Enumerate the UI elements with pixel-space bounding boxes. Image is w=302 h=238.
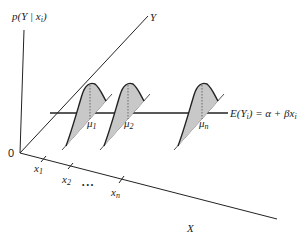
regression-diagram: p(Y | xi) Y X 0 x1 x2 xn • • • μ1 μ2 μn …	[0, 0, 302, 238]
y-axis-label: Y	[150, 11, 158, 23]
x-axis	[20, 153, 277, 219]
mean-label-n: μn	[198, 117, 209, 131]
mean-label-2: μ2	[123, 117, 134, 131]
density-axis-label: p(Y | xi)	[11, 10, 47, 24]
mean-label-1: μ1	[86, 117, 97, 131]
ellipsis: • • •	[82, 181, 94, 188]
regression-equation-label: E(Yi) = α + βxi	[229, 107, 297, 121]
x-axis-label: X	[186, 222, 195, 234]
density-axis	[20, 30, 24, 153]
x-tick-label-2: x2	[61, 173, 71, 187]
x-tick-label-1: x1	[33, 162, 43, 176]
origin-label: 0	[8, 147, 14, 159]
x-tick-label-n: xn	[110, 186, 120, 200]
